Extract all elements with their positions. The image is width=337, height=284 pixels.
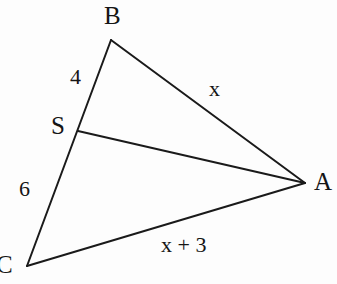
vertex-label-s: S — [51, 113, 65, 138]
vertex-label-c: C — [0, 252, 13, 277]
length-label-sc: 6 — [19, 178, 30, 200]
vertex-label-b: B — [104, 3, 121, 28]
length-label-bs: 4 — [70, 66, 81, 88]
vertex-label-a: A — [314, 169, 332, 194]
length-label-ca: x + 3 — [161, 234, 206, 256]
length-label-ba: x — [209, 78, 220, 100]
segment-BC — [27, 40, 111, 266]
geometry-figure: B A C S 4 6 x x + 3 — [0, 0, 337, 284]
